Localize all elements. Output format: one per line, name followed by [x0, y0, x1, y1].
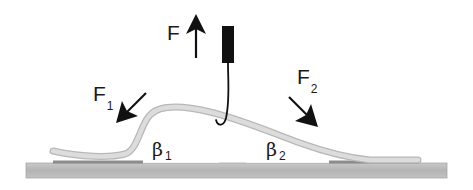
label-left-angle: β1: [152, 140, 170, 159]
left-adhesive-pad: [53, 161, 143, 164]
left-force-subscript: 1: [107, 99, 114, 113]
right-angle-subscript: 2: [279, 149, 286, 163]
label-left-force: F1: [93, 83, 113, 104]
label-applied-force: F: [167, 22, 180, 43]
applied-force-text: F: [167, 21, 180, 44]
label-right-angle: β2: [266, 140, 284, 159]
peeled-strip-edge: [53, 107, 418, 160]
peeled-strip: [53, 107, 418, 160]
left-angle-subscript: 1: [165, 149, 172, 163]
force-arrow-up: [186, 14, 206, 58]
force-arrow-left: [116, 93, 146, 123]
left-force-text: F: [93, 82, 106, 105]
force-arrow-right: [289, 97, 318, 127]
right-force-subscript: 2: [311, 82, 318, 96]
peel-test-diagram: [0, 0, 473, 190]
label-right-force: F2: [297, 66, 317, 87]
right-force-text: F: [297, 65, 310, 88]
left-angle-text: β: [152, 138, 163, 160]
substrate: [26, 163, 447, 178]
right-angle-text: β: [266, 138, 277, 160]
probe: [222, 26, 234, 63]
